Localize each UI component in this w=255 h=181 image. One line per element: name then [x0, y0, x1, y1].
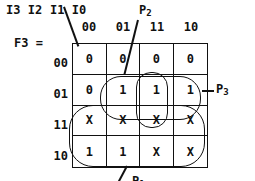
kmap-cell[interactable]: 1 — [174, 75, 208, 106]
column-header-01: 01 — [106, 21, 140, 33]
kmap-cell[interactable]: X — [174, 136, 208, 167]
kmap-cell[interactable]: 0 — [73, 44, 107, 75]
kmap-cell[interactable]: 1 — [140, 75, 174, 106]
kmap-cell[interactable]: 1 — [73, 136, 107, 167]
kmap-cell[interactable]: X — [174, 106, 208, 137]
group-label-p3-subscript: 3 — [223, 87, 228, 97]
kmap-grid: 0 0 0 0 0 1 1 1 X X X X 1 1 X X — [72, 43, 208, 168]
column-header-11: 11 — [140, 21, 174, 33]
kmap-cell[interactable]: 0 — [73, 75, 107, 106]
group-label-p2-subscript: 2 — [146, 8, 151, 18]
column-header-10: 10 — [174, 21, 208, 33]
row-header-10: 10 — [38, 150, 68, 162]
row-header-11: 11 — [38, 119, 68, 131]
kmap-cell[interactable]: X — [107, 106, 141, 137]
group-label-p1-subscript: 1 — [139, 179, 144, 181]
row-header-00: 00 — [38, 57, 68, 69]
column-header-00: 00 — [72, 21, 106, 33]
kmap-cell[interactable]: 0 — [174, 44, 208, 75]
group-label-p3: P3 — [216, 83, 229, 96]
function-label: F3 = — [14, 37, 43, 49]
karnaugh-map: I3 I2 I1 I0 F3 = 00 01 11 10 00 01 11 10… — [0, 0, 255, 181]
group-label-p1: P1 — [132, 175, 145, 181]
row-variable-label: I3 I2 — [6, 4, 42, 16]
kmap-cell[interactable]: 1 — [107, 136, 141, 167]
kmap-cell[interactable]: X — [140, 136, 174, 167]
kmap-cell[interactable]: X — [140, 106, 174, 137]
column-variable-label: I1 I0 — [50, 4, 86, 16]
kmap-cell[interactable]: 0 — [140, 44, 174, 75]
row-header-01: 01 — [38, 88, 68, 100]
kmap-cell[interactable]: X — [73, 106, 107, 137]
group-label-p2: P2 — [139, 4, 152, 17]
kmap-cell[interactable]: 1 — [107, 75, 141, 106]
kmap-cell[interactable]: 0 — [107, 44, 141, 75]
